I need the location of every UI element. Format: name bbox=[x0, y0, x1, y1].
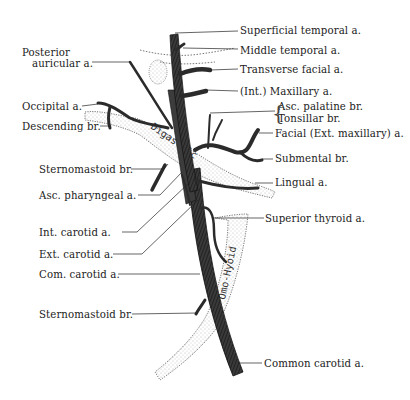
label-int-carotid: Int. carotid a. bbox=[39, 227, 111, 238]
label-asc-palatine: Asc. palatine br. bbox=[278, 101, 363, 112]
label-superior-thyroid: Superior thyroid a. bbox=[265, 213, 365, 224]
label-int-maxillary: (Int.) Maxillary a. bbox=[240, 86, 332, 97]
label-common-carotid: Common carotid a. bbox=[264, 358, 364, 369]
label-sternomastoid-lower: Sternomastoid br. bbox=[39, 309, 133, 320]
label-asc-pharyngeal: Asc. pharyngeal a. bbox=[39, 190, 136, 201]
label-com-carotid: Com. carotid a. bbox=[39, 269, 120, 280]
label-sternomastoid-upper: Sternomastoid br. bbox=[39, 164, 133, 175]
label-posterior-auricular-1: Posterior bbox=[22, 47, 70, 58]
bracket: { bbox=[272, 103, 285, 123]
label-lingual: Lingual a. bbox=[275, 177, 328, 188]
label-posterior-auricular-2: auricular a. bbox=[32, 58, 93, 69]
label-facial: Facial (Ext. maxillary) a. bbox=[275, 128, 404, 139]
label-superficial-temporal: Superficial temporal a. bbox=[240, 25, 361, 36]
label-middle-temporal: Middle temporal a. bbox=[240, 45, 340, 56]
label-occipital: Occipital a. bbox=[22, 101, 82, 112]
label-ext-carotid: Ext. carotid a. bbox=[39, 249, 113, 260]
label-submental: Submental br. bbox=[275, 153, 349, 164]
label-descending-br: Descending br. bbox=[22, 121, 101, 132]
label-transverse-facial: Transverse facial a. bbox=[240, 64, 343, 75]
label-tonsillar: Tonsillar br. bbox=[278, 113, 341, 124]
mastoid-oval bbox=[149, 60, 167, 84]
